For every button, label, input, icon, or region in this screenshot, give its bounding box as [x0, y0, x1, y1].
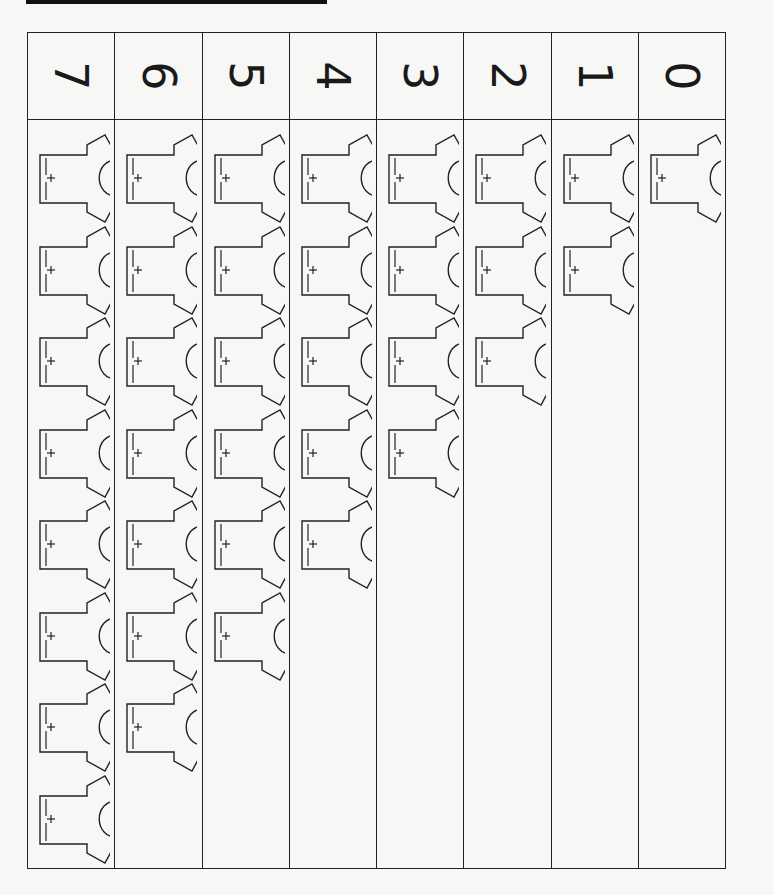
column-6: 6 [115, 33, 202, 868]
t-shirt-icon [210, 405, 285, 500]
t-shirt-icon [471, 130, 546, 225]
column-4: 4 [290, 33, 377, 868]
t-shirt-icon [122, 405, 197, 500]
column-0: 0 [639, 33, 725, 868]
column-header: 0 [639, 33, 725, 120]
t-shirt-icon [297, 130, 372, 225]
t-shirt-icon [384, 313, 459, 408]
number-label: 0 [659, 61, 705, 90]
number-label: 1 [572, 61, 618, 90]
t-shirt-icon [384, 130, 459, 225]
t-shirt-icon [122, 588, 197, 683]
column-header: 2 [464, 33, 550, 120]
column-7: 7 [28, 33, 115, 868]
column-3: 3 [377, 33, 464, 868]
shirt-area [552, 120, 638, 868]
counting-grid: 7 6 [27, 32, 726, 869]
t-shirt-icon [297, 496, 372, 591]
t-shirt-icon [35, 588, 110, 683]
number-label: 5 [223, 61, 269, 90]
t-shirt-icon [35, 679, 110, 774]
column-5: 5 [203, 33, 290, 868]
t-shirt-icon [210, 588, 285, 683]
shirt-area [28, 120, 114, 868]
t-shirt-icon [297, 313, 372, 408]
column-2: 2 [464, 33, 551, 868]
number-label: 3 [397, 61, 443, 90]
t-shirt-icon [210, 222, 285, 317]
shirt-area [377, 120, 463, 868]
t-shirt-icon [122, 679, 197, 774]
t-shirt-icon [297, 405, 372, 500]
t-shirt-icon [384, 405, 459, 500]
column-header: 3 [377, 33, 463, 120]
t-shirt-icon [122, 130, 197, 225]
shirt-area [639, 120, 725, 868]
t-shirt-icon [122, 313, 197, 408]
column-header: 6 [115, 33, 201, 120]
t-shirt-icon [35, 130, 110, 225]
column-1: 1 [552, 33, 639, 868]
column-header: 4 [290, 33, 376, 120]
t-shirt-icon [122, 496, 197, 591]
shirt-area [203, 120, 289, 868]
shirt-area [290, 120, 376, 868]
column-header: 7 [28, 33, 114, 120]
column-header: 1 [552, 33, 638, 120]
t-shirt-icon [559, 130, 634, 225]
shirt-area [115, 120, 201, 868]
t-shirt-icon [122, 222, 197, 317]
top-black-bar [26, 0, 327, 4]
t-shirt-icon [35, 222, 110, 317]
number-label: 4 [310, 61, 356, 90]
number-label: 6 [135, 61, 181, 90]
column-header: 5 [203, 33, 289, 120]
t-shirt-icon [210, 496, 285, 591]
t-shirt-icon [210, 130, 285, 225]
t-shirt-icon [297, 222, 372, 317]
t-shirt-icon [646, 130, 721, 225]
t-shirt-icon [35, 405, 110, 500]
t-shirt-icon [384, 222, 459, 317]
t-shirt-icon [471, 222, 546, 317]
t-shirt-icon [35, 771, 110, 866]
number-label: 7 [48, 61, 94, 90]
number-label: 2 [484, 61, 530, 90]
t-shirt-icon [35, 313, 110, 408]
shirt-area [464, 120, 550, 868]
t-shirt-icon [471, 313, 546, 408]
t-shirt-icon [210, 313, 285, 408]
t-shirt-icon [559, 222, 634, 317]
t-shirt-icon [35, 496, 110, 591]
